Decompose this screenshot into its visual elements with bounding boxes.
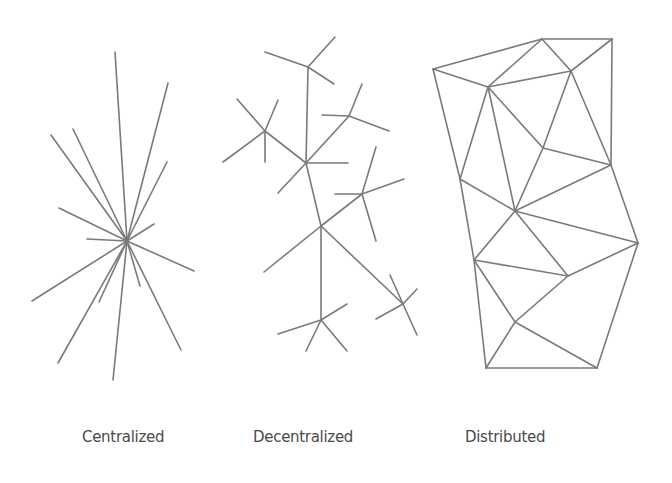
centralized-edge xyxy=(127,241,194,271)
distributed-edge xyxy=(488,87,543,148)
decentralized-edge xyxy=(265,131,306,163)
decentralized-edge xyxy=(362,194,376,241)
distributed-edge xyxy=(571,39,612,71)
decentralized-edge xyxy=(278,163,306,193)
distributed-edge xyxy=(515,148,543,211)
centralized-edge xyxy=(127,83,168,241)
centralized-network-graph xyxy=(32,52,194,380)
decentralized-edge xyxy=(321,304,347,320)
distributed-edge xyxy=(488,87,515,211)
decentralized-edge xyxy=(376,304,403,319)
distributed-edge xyxy=(474,211,515,260)
decentralized-edge xyxy=(265,100,278,131)
distributed-edge xyxy=(433,69,460,179)
centralized-label: Centralized xyxy=(82,428,164,446)
distributed-edge xyxy=(571,71,611,165)
decentralized-edge xyxy=(349,84,362,116)
decentralized-label: Decentralized xyxy=(253,428,353,446)
distributed-network-graph xyxy=(433,39,638,368)
distributed-edge xyxy=(542,39,571,71)
network-topology-diagram xyxy=(0,0,672,483)
distributed-edge xyxy=(611,39,612,165)
decentralized-edge xyxy=(362,147,376,194)
decentralized-edge xyxy=(362,179,404,194)
decentralized-edge xyxy=(321,226,403,304)
centralized-edge xyxy=(127,241,181,350)
centralized-edge xyxy=(59,208,127,241)
distributed-edge xyxy=(611,165,638,243)
distributed-edge xyxy=(460,179,515,211)
decentralized-edge xyxy=(308,67,334,84)
distributed-edge xyxy=(460,179,474,260)
decentralized-edge xyxy=(237,99,265,131)
distributed-edge xyxy=(486,322,515,368)
distributed-edge xyxy=(543,71,571,148)
distributed-edge xyxy=(515,211,638,243)
decentralized-edge xyxy=(321,320,347,351)
distributed-edge xyxy=(515,211,568,276)
distributed-edge xyxy=(433,69,488,87)
decentralized-edge xyxy=(306,163,321,226)
decentralized-edge xyxy=(223,131,265,162)
centralized-edge xyxy=(51,135,127,241)
decentralized-edge xyxy=(403,304,417,335)
decentralized-edge xyxy=(390,275,403,304)
centralized-edge xyxy=(87,239,127,241)
distributed-label: Distributed xyxy=(465,428,545,446)
distributed-edge xyxy=(515,276,568,322)
decentralized-network-graph xyxy=(223,37,417,351)
distributed-edge xyxy=(568,243,638,276)
decentralized-edge xyxy=(322,115,349,116)
distributed-edge xyxy=(460,87,488,179)
distributed-edge xyxy=(515,165,611,211)
decentralized-edge xyxy=(349,116,389,131)
decentralized-edge xyxy=(321,194,362,226)
distributed-edge xyxy=(488,71,571,87)
distributed-edge xyxy=(543,148,611,165)
decentralized-edge xyxy=(308,37,335,67)
centralized-edge xyxy=(73,129,127,241)
decentralized-edge xyxy=(306,116,349,163)
distributed-edge xyxy=(515,322,597,368)
decentralized-edge xyxy=(264,226,321,272)
centralized-edge xyxy=(115,52,127,241)
decentralized-edge xyxy=(403,289,417,304)
decentralized-edge xyxy=(306,67,308,163)
distributed-edge xyxy=(597,243,638,368)
distributed-edge xyxy=(474,260,568,276)
decentralized-edge xyxy=(265,52,308,67)
